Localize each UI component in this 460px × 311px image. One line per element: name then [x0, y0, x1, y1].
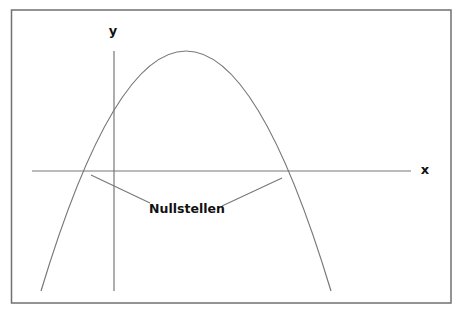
leader-line-left-root — [91, 175, 150, 203]
y-axis-label: y — [109, 23, 118, 38]
frame — [12, 10, 452, 303]
diagram: y x Nullstellen — [0, 0, 460, 311]
roots-annotation: Nullstellen — [149, 201, 225, 216]
x-axis-label: x — [421, 162, 430, 177]
leader-line-right-root — [222, 178, 282, 206]
